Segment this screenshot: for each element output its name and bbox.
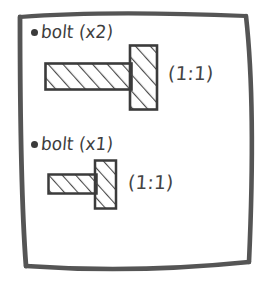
sketch-content: bolt (x2) (1:1) bolt (x1) xyxy=(0,0,270,288)
bullet-dot-icon xyxy=(31,29,38,36)
scale-note: (1:1) xyxy=(167,62,214,84)
bolt-head xyxy=(130,46,157,110)
part-label-row: bolt (x1) xyxy=(31,134,113,154)
bolt-shaft xyxy=(46,64,132,90)
part-label: bolt (x1) xyxy=(40,133,114,154)
part-label: bolt (x2) xyxy=(40,21,114,42)
bolt-side-view-icon xyxy=(44,44,162,114)
bolt-head xyxy=(95,161,116,209)
bolt-side-view-icon xyxy=(47,159,121,213)
bullet-dot-icon xyxy=(31,141,38,148)
sketch-sheet: bolt (x2) (1:1) bolt (x1) xyxy=(0,0,270,288)
bolt-shaft xyxy=(49,175,97,194)
part-label-row: bolt (x2) xyxy=(31,22,113,42)
scale-note: (1:1) xyxy=(127,171,174,193)
